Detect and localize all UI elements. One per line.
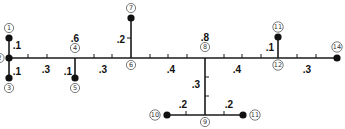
node-label: 5 — [73, 84, 77, 92]
node-label: 9 — [203, 118, 207, 126]
node-dot-2 — [5, 54, 12, 61]
node-label: 12 — [274, 61, 282, 69]
node-label: 4 — [73, 44, 77, 52]
node-label: 10 — [151, 111, 159, 119]
node-label: 2 — [0, 54, 2, 62]
node-value-label: .8 — [201, 32, 210, 43]
node-dot-11b — [239, 111, 246, 118]
node-value-label: .6 — [71, 33, 80, 44]
node-dot-5 — [71, 74, 78, 81]
edge-weight-label: .3 — [303, 64, 312, 75]
node-dot-14 — [333, 54, 340, 61]
edge-weight-label: .4 — [233, 64, 242, 75]
node-dot-1 — [5, 34, 12, 41]
node-dot-3 — [5, 74, 12, 81]
node-dot-7 — [127, 14, 134, 21]
node-label: 7 — [129, 4, 133, 12]
edge-weight-label: .2 — [117, 34, 126, 45]
weight-label-layer: .1.1.3.1.3.2.4.3.2.2.4.1.3 — [13, 34, 312, 110]
edge-weight-label: .3 — [192, 79, 201, 90]
node-label: 11 — [251, 111, 259, 119]
node-dot-10 — [163, 111, 170, 118]
edge-weight-label: .1 — [64, 66, 73, 77]
edge-weight-label: .3 — [99, 64, 108, 75]
node-dot-11 — [274, 33, 281, 40]
weighted-tree-diagram: .1.1.3.1.3.2.4.3.2.2.4.1.3 .6.8 12345678… — [0, 0, 345, 129]
edge-weight-label: .2 — [179, 99, 188, 110]
node-label: 6 — [129, 61, 133, 69]
edge-weight-label: .4 — [167, 64, 176, 75]
node-label: 1 — [7, 24, 11, 32]
node-label: 3 — [7, 84, 11, 92]
edge-weight-label: .1 — [13, 40, 22, 51]
node-label: 14 — [333, 43, 341, 51]
node-label: 8 — [203, 43, 207, 51]
edge-weight-label: .1 — [266, 42, 275, 53]
node-value-layer: .6.8 — [71, 32, 210, 44]
edge-weight-label: .3 — [42, 64, 51, 75]
node-label: 11 — [274, 23, 282, 31]
edge-weight-label: .2 — [225, 99, 234, 110]
edge-weight-label: .1 — [13, 66, 22, 77]
